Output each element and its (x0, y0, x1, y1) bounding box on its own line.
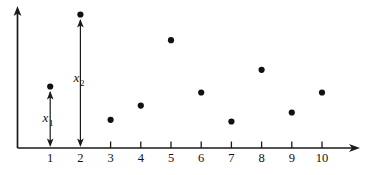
x-tick-label-7: 7 (228, 151, 234, 165)
data-point (168, 37, 174, 43)
annotation-x1-label-subscript: 1 (49, 118, 54, 128)
data-point (289, 109, 295, 115)
data-point (198, 89, 204, 95)
x-tick-labels: 1 2 3 4 5 6 7 8 9 10 (47, 151, 328, 165)
data-point (138, 103, 144, 109)
annotation-x1-label: x1 (42, 110, 54, 128)
scatter-figure: 1 2 3 4 5 6 7 8 9 10 x1 x2 (0, 0, 375, 175)
x-tick-label-4: 4 (138, 151, 145, 165)
data-points-group (47, 11, 325, 124)
annotation-x1: x1 (42, 91, 54, 147)
x-tick-label-3: 3 (107, 151, 113, 165)
x-tick-label-8: 8 (258, 151, 264, 165)
annotation-x2: x2 (73, 19, 85, 147)
axes-group (14, 6, 360, 152)
x-tick-label-1: 1 (47, 151, 53, 165)
data-point (228, 118, 234, 124)
x-tick-marks (111, 142, 322, 149)
x-tick-label-10: 10 (316, 151, 329, 165)
annotation-x2-label-base: x (73, 70, 80, 85)
data-point (108, 117, 114, 123)
data-point (319, 89, 325, 95)
annotation-x2-label-subscript: 2 (80, 78, 85, 88)
x-tick-label-5: 5 (168, 151, 174, 165)
annotation-x2-label: x2 (73, 70, 85, 88)
x-tick-label-9: 9 (289, 151, 295, 165)
data-point (259, 67, 265, 73)
data-point (47, 83, 53, 89)
annotation-x1-label-base: x (42, 110, 49, 125)
x-tick-label-2: 2 (77, 151, 83, 165)
plot-canvas: 1 2 3 4 5 6 7 8 9 10 x1 x2 (0, 0, 375, 175)
data-point (77, 11, 83, 17)
x-tick-label-6: 6 (198, 151, 204, 165)
